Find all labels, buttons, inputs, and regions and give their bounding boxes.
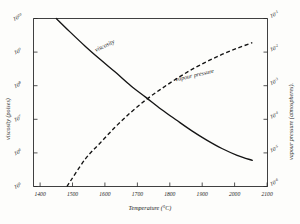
y-right-axis-title: vapour pressure (atmospheres). <box>288 83 295 160</box>
x-tick-label: 2000 <box>229 191 240 197</box>
x-tick-label: 1800 <box>164 191 175 197</box>
x-tick-label: 1400 <box>35 191 46 197</box>
x-axis-title: Temperature (°C) <box>129 205 172 212</box>
x-tick-label: 1900 <box>197 191 208 197</box>
x-tick-label: 1500 <box>67 191 78 197</box>
y-left-axis-title: viscosity (poises) <box>5 98 12 140</box>
x-tick-label: 2100 <box>262 191 273 197</box>
x-tick-label: 1700 <box>132 191 143 197</box>
chart-canvas: 1010 109 108 107 106 105 viscosity (pois… <box>0 0 300 224</box>
x-tick-label: 1600 <box>99 191 110 197</box>
chart-figure: 1010 109 108 107 106 105 viscosity (pois… <box>0 0 300 224</box>
